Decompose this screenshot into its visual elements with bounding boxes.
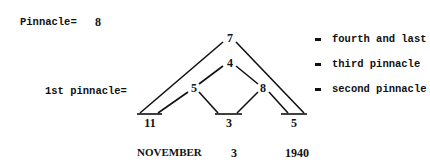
legend-item-fourth: fourth and last (332, 34, 427, 45)
pinnacle-value: 8 (95, 16, 101, 28)
line-4-to-8 (236, 66, 258, 84)
line-8-to-3 (237, 92, 258, 113)
line-7-to-5 (236, 42, 304, 113)
legend-item-second: second pinnacle (332, 84, 427, 95)
date-year: 1940 (285, 147, 309, 159)
node-base-center: 3 (226, 117, 232, 129)
line-5-to-11 (158, 92, 188, 113)
line-8-to-5 (269, 92, 288, 113)
pinnacle-label: Pinnacle= (20, 17, 77, 28)
date-day: 3 (231, 147, 237, 159)
node-right-middle: 8 (260, 82, 266, 94)
line-7-to-11 (140, 42, 223, 113)
equals-bullet-icon (315, 38, 321, 41)
date-month: NOVEMBER (137, 147, 202, 158)
first-pinnacle-label: 1st pinnacle= (45, 86, 127, 97)
equals-bullet-icon (315, 63, 321, 66)
node-base-left: 11 (144, 117, 155, 129)
line-4-to-5 (199, 66, 223, 84)
node-top: 7 (227, 32, 233, 44)
legend-item-third: third pinnacle (332, 59, 420, 70)
line-5-to-3 (199, 92, 218, 113)
equals-bullet-icon (315, 88, 321, 91)
node-upper-middle: 4 (227, 57, 233, 69)
node-base-right: 5 (291, 117, 297, 129)
node-left-middle: 5 (191, 82, 197, 94)
